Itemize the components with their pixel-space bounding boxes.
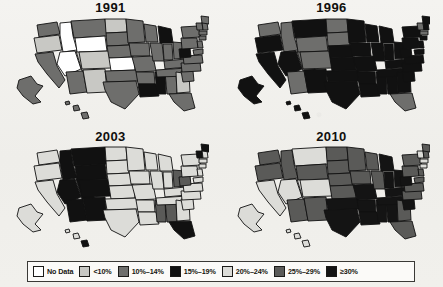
state-MT [71,19,107,38]
state-MN [347,19,366,43]
legend-item-under-10: <10% [79,266,111,277]
state-NM [304,197,328,221]
state-WY [296,164,328,180]
state-SC [402,71,415,82]
state-IA [129,43,150,56]
state-KS [109,57,135,71]
us-choropleth-1991 [13,14,209,122]
state-HI2 [73,105,80,111]
state-NE [107,173,132,186]
state-HI [286,101,291,105]
state-SC [402,199,415,210]
state-MA [420,159,428,163]
state-ND [105,147,127,161]
state-WV [400,48,412,58]
state-AR [357,72,376,84]
state-NE [328,45,353,58]
state-AK [238,204,264,232]
state-IA [350,171,371,184]
legend-swatch-25-29 [274,266,285,277]
state-WY [296,36,328,52]
legend-item-30-plus: ≥30% [326,266,358,277]
state-MD-DE [414,177,424,183]
legend-item-25-29: 25%–29% [274,266,320,277]
state-KS [330,57,356,71]
state-MA [199,31,207,35]
state-WA [258,150,281,165]
us-choropleth-1996 [234,14,430,122]
state-MI [379,26,394,43]
state-IN [163,44,173,60]
state-HI [65,101,70,105]
legend-swatch-under-10 [79,266,90,277]
state-HI3 [81,240,89,247]
state-FL [390,93,416,111]
state-WV [179,48,191,58]
state-MT [71,147,107,166]
state-MA [199,159,207,163]
state-IA [129,171,150,184]
map-panel-1996: 1996 [221,0,442,128]
legend-swatch-30-plus [326,266,337,277]
state-MN [126,147,145,171]
state-HI3 [302,112,310,119]
state-WY [75,36,107,52]
state-CO [79,51,111,69]
state-WA [37,22,60,37]
state-WI [144,24,158,42]
state-NE [107,45,132,58]
state-IN [384,172,394,188]
state-MD-DE [193,177,203,183]
state-OR [255,35,283,53]
map-panel-2010: 2010 [221,128,442,256]
state-FL [390,221,416,239]
state-AK [17,76,43,104]
state-TX [103,209,139,237]
state-HI [65,229,70,233]
state-MD-DE [414,49,424,55]
state-CO [300,51,332,69]
legend-swatch-15-19 [170,266,181,277]
state-MI [158,154,173,171]
legend-label-under-10: <10% [93,267,111,276]
state-MT [292,19,328,38]
legend-item-15-19: 15%–19% [170,266,216,277]
state-WV [400,176,412,186]
state-HI2 [294,105,301,111]
state-WI [365,152,379,170]
state-NM [83,69,107,93]
state-WA [258,22,281,37]
us-choropleth-2003 [13,142,209,250]
state-MN [347,147,366,171]
state-OR [34,163,62,181]
state-NJ [418,169,424,176]
state-HI3 [302,240,310,247]
state-WV [179,176,191,186]
legend-swatch-20-24 [222,266,233,277]
state-OK [326,70,359,82]
state-PA [402,38,419,49]
legend-item-20-24: 20%–24% [222,266,268,277]
state-TX [103,81,139,109]
state-ME [422,16,430,24]
state-SD [327,32,350,46]
state-HI3 [81,112,89,119]
state-OK [105,70,138,82]
state-KS [109,185,135,199]
legend-label-20-24: 20%–24% [236,267,268,276]
state-ND [105,19,127,33]
state-SC [181,199,194,210]
state-CO [79,179,111,197]
state-TX [324,209,360,237]
legend-label-10-14: 10%–14% [132,267,164,276]
state-TX [324,81,360,109]
state-PA [402,166,419,177]
state-ME [201,16,209,24]
state-MT [292,147,328,166]
state-IL [371,43,385,61]
state-CO [300,179,332,197]
state-ND [326,147,348,161]
state-NJ [197,41,203,48]
map-title-1991: 1991 [0,1,221,15]
state-OK [326,198,359,210]
